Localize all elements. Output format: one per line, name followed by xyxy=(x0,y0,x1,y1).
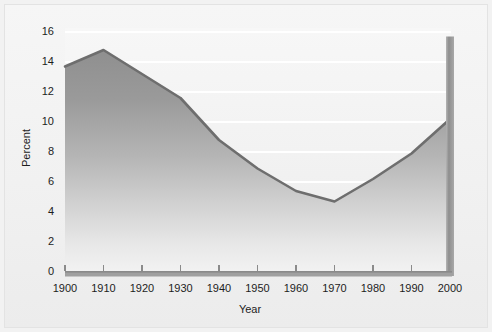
xtick-label-2000: 2000 xyxy=(427,283,473,294)
ytick-label-10: 10 xyxy=(26,116,54,127)
ytick-label-14: 14 xyxy=(26,56,54,67)
x-axis-title-text: Year xyxy=(239,303,261,315)
chart-figure: 16 14 12 10 8 6 4 2 0 1900 1910 1920 193… xyxy=(0,0,492,332)
ytick-label-2: 2 xyxy=(26,236,54,247)
x-axis-title: Year xyxy=(0,303,492,315)
ytick-label-0: 0 xyxy=(26,266,54,277)
right-axis-bar xyxy=(446,37,454,277)
ytick-label-6: 6 xyxy=(26,176,54,187)
ytick-label-12: 12 xyxy=(26,86,54,97)
ytick-label-16: 16 xyxy=(26,26,54,37)
y-axis-title: Percent xyxy=(20,128,32,168)
ytick-label-4: 4 xyxy=(26,206,54,217)
x-axis-bar xyxy=(65,271,452,277)
